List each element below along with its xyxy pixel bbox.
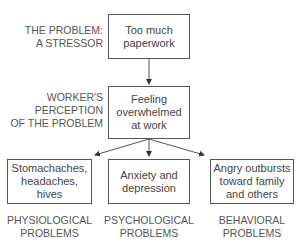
physiological-label: PHYSIOLOGICAL PROBLEMS bbox=[0, 214, 99, 240]
behavioral-label: BEHAVIORAL PROBLEMS bbox=[205, 214, 297, 240]
stressor-label: THE PROBLEM: A STRESSOR bbox=[0, 24, 103, 50]
arrow-to-behavioral bbox=[149, 139, 204, 155]
psychological-box: Anxiety and depression bbox=[108, 159, 190, 204]
perception-label: WORKER'S PERCEPTION OF THE PROBLEM bbox=[0, 91, 103, 130]
perception-box: Feeling overwhelmed at work bbox=[108, 86, 190, 139]
behavioral-box: Angry outbursts toward family and others bbox=[210, 159, 294, 204]
psychological-label: PSYCHOLOGICAL PROBLEMS bbox=[100, 214, 198, 240]
physiological-box: Stomachaches, headaches, hives bbox=[7, 159, 92, 204]
arrow-to-physiological bbox=[95, 139, 149, 155]
stressor-box: Too much paperwork bbox=[108, 14, 190, 59]
